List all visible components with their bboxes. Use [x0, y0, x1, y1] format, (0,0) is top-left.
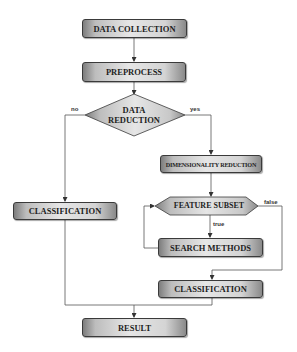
node-label: RESULT: [118, 323, 151, 333]
node-label: DIMENSIONALITY REDUCTION: [166, 161, 256, 168]
node-label-line1: DATA: [123, 105, 146, 115]
node-label-line2: REDUCTION: [108, 115, 160, 125]
node-label: DATA COLLECTION: [93, 24, 175, 34]
edge-label-yes: yes: [190, 106, 200, 112]
node-classification-right: CLASSIFICATION: [158, 280, 263, 298]
edge-label-true: true: [213, 221, 224, 227]
node-dimensionality-reduction: DIMENSIONALITY REDUCTION: [160, 155, 262, 173]
node-label: PREPROCESS: [106, 67, 162, 77]
node-data-reduction: DATA REDUCTION: [95, 103, 173, 127]
node-label: CLASSIFICATION: [29, 206, 102, 216]
node-data-collection: DATA COLLECTION: [82, 19, 187, 38]
node-label: SEARCH METHODS: [170, 243, 251, 253]
node-feature-subset: FEATURE SUBSET: [165, 198, 253, 214]
edge-label-false: false: [264, 199, 278, 205]
connector-lines: [0, 0, 297, 352]
node-classification-left: CLASSIFICATION: [13, 202, 117, 220]
node-search-methods: SEARCH METHODS: [158, 238, 263, 257]
edge-label-no: no: [71, 106, 78, 112]
node-label: FEATURE SUBSET: [174, 201, 244, 211]
node-label: CLASSIFICATION: [174, 284, 247, 294]
node-result: RESULT: [82, 318, 187, 337]
node-preprocess: PREPROCESS: [82, 62, 186, 82]
